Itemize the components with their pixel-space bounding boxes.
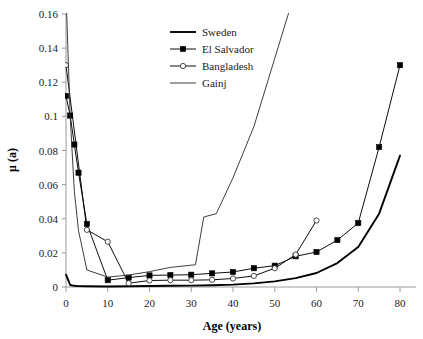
legend-marker — [180, 63, 185, 68]
x-tick-label: 10 — [102, 297, 114, 309]
legend-label: Bangladesh — [202, 60, 254, 72]
data-point-marker — [293, 252, 298, 257]
y-tick-label: 0.02 — [39, 247, 58, 259]
y-tick-label: 0 — [53, 281, 59, 293]
chart-container: 00.020.040.060.080.10.120.140.16 0102030… — [0, 0, 423, 339]
data-point-marker — [126, 281, 131, 286]
data-point-marker — [168, 278, 173, 283]
y-tick-label: 0.08 — [39, 145, 59, 157]
data-point-marker — [272, 266, 277, 271]
y-tick-label: 0.14 — [39, 42, 59, 54]
legend-label: Gainj — [202, 77, 226, 89]
y-tick-label: 0.16 — [39, 8, 59, 20]
data-point-marker — [356, 220, 361, 225]
data-point-marker — [147, 278, 152, 283]
data-point-marker — [230, 269, 235, 274]
data-point-marker — [314, 249, 319, 254]
data-point-marker — [189, 278, 194, 283]
data-point-marker — [168, 272, 173, 277]
data-point-marker — [335, 237, 340, 242]
legend-label: El Salvador — [202, 43, 254, 55]
x-tick-label: 40 — [228, 297, 240, 309]
y-tick-label: 0.12 — [39, 76, 58, 88]
data-point-marker — [105, 278, 110, 283]
data-point-marker — [105, 239, 110, 244]
data-point-marker — [210, 277, 215, 282]
x-tick-label: 50 — [269, 297, 281, 309]
x-axis-title: Age (years) — [203, 319, 261, 333]
data-point-marker — [84, 221, 89, 226]
legend-label: Sweden — [202, 26, 237, 38]
mortality-curve-chart: 00.020.040.060.080.10.120.140.16 0102030… — [0, 0, 423, 339]
y-tick-label: 0.1 — [44, 110, 58, 122]
y-tick-label: 0.06 — [39, 179, 59, 191]
data-point-marker — [251, 266, 256, 271]
x-tick-label: 0 — [63, 297, 69, 309]
legend-marker — [180, 46, 185, 51]
data-point-marker — [147, 273, 152, 278]
y-axis-title: μ (a) — [5, 148, 19, 172]
data-point-marker — [189, 272, 194, 277]
data-point-marker — [230, 276, 235, 281]
data-point-marker — [210, 271, 215, 276]
x-tick-label: 20 — [144, 297, 156, 309]
y-tick-label: 0.04 — [39, 213, 59, 225]
x-tick-label: 60 — [311, 297, 323, 309]
data-point-marker — [377, 144, 382, 149]
x-tick-label: 70 — [353, 297, 365, 309]
data-point-marker — [76, 170, 81, 175]
data-point-marker — [397, 63, 402, 68]
data-point-marker — [84, 227, 89, 232]
x-tick-label: 30 — [186, 297, 198, 309]
x-tick-label: 80 — [395, 297, 407, 309]
data-point-marker — [314, 218, 319, 223]
data-point-marker — [251, 273, 256, 278]
